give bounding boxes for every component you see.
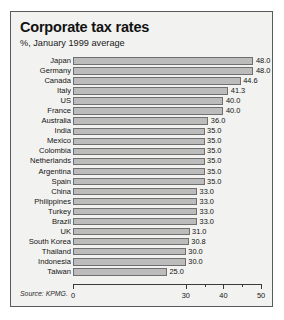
bar-row: Germany48.0: [11, 66, 272, 76]
bar-value-label: 36.0: [208, 116, 225, 126]
bar: [73, 218, 197, 225]
bar-row: Indonesia30.0: [11, 257, 272, 267]
bar-track: 35.0: [73, 167, 272, 177]
bar-row: Turkey33.0: [11, 207, 272, 217]
bar: [73, 258, 186, 265]
bar-track: 36.0: [73, 116, 272, 126]
bar-value-label: 41.3: [228, 86, 245, 96]
bar-category-label: Netherlands: [11, 156, 71, 166]
bar-category-label: Taiwan: [11, 267, 71, 277]
bar-value-label: 35.0: [205, 136, 222, 146]
bar: [73, 238, 189, 245]
bar-row: Argentina35.0: [11, 167, 272, 177]
bar-value-label: 35.0: [205, 177, 222, 187]
bar-track: 33.0: [73, 217, 272, 227]
bar-category-label: India: [11, 126, 71, 136]
bar-row: Spain35.0: [11, 177, 272, 187]
bar-row: India35.0: [11, 126, 272, 136]
bar-category-label: Thailand: [11, 247, 71, 257]
chart-subtitle: %, January 1999 average: [20, 37, 272, 50]
bar: [73, 77, 241, 84]
bar-value-label: 40.0: [223, 106, 240, 116]
bar-category-label: US: [11, 96, 71, 106]
bar-value-label: 31.0: [190, 227, 207, 237]
bar-value-label: 35.0: [205, 156, 222, 166]
bar-value-label: 30.0: [186, 257, 203, 267]
bar-row: Thailand30.0: [11, 247, 272, 257]
bar-category-label: Argentina: [11, 167, 71, 177]
bar-row: Japan48.0: [11, 56, 272, 66]
bar-row: China33.0: [11, 187, 272, 197]
bar-track: 41.3: [73, 86, 272, 96]
bar-row: Mexico35.0: [11, 136, 272, 146]
bar-row: Netherlands35.0: [11, 156, 272, 166]
bar-track: 35.0: [73, 146, 272, 156]
bar-value-label: 33.0: [197, 217, 214, 227]
bar-value-label: 30.0: [186, 247, 203, 257]
bar-track: 44.6: [73, 76, 272, 86]
bar-value-label: 48.0: [253, 66, 270, 76]
bar: [73, 228, 190, 235]
bar-category-label: Indonesia: [11, 257, 71, 267]
bar: [73, 138, 205, 145]
bar-value-label: 33.0: [197, 187, 214, 197]
bar-track: 33.0: [73, 187, 272, 197]
bar: [73, 178, 205, 185]
bar-row: Colombia35.0: [11, 146, 272, 156]
bar-track: 35.0: [73, 177, 272, 187]
x-axis-tick-label: 0: [71, 291, 75, 300]
bar-value-label: 25.0: [167, 267, 184, 277]
bar-row: Italy41.3: [11, 86, 272, 96]
bar-category-label: South Korea: [11, 237, 71, 247]
bar-row: Brazil33.0: [11, 217, 272, 227]
bar-track: 48.0: [73, 56, 272, 66]
bar-value-label: 35.0: [205, 126, 222, 136]
bar-track: 40.0: [73, 96, 272, 106]
bar: [73, 107, 223, 114]
bar-row: Canada44.6: [11, 76, 272, 86]
x-axis-minor-tick: [242, 284, 243, 287]
bar-row: Taiwan25.0: [11, 267, 272, 277]
chart-figure: Corporate tax rates %, January 1999 aver…: [10, 11, 273, 307]
bar-category-label: UK: [11, 227, 71, 237]
bar: [73, 158, 205, 165]
bar-category-label: Italy: [11, 86, 71, 96]
bar-category-label: China: [11, 187, 71, 197]
bar: [73, 87, 228, 94]
bar-track: 30.8: [73, 237, 272, 247]
source-note: Source: KPMG.: [20, 290, 68, 297]
bar-value-label: 48.0: [253, 56, 270, 66]
bar-track: 35.0: [73, 156, 272, 166]
bar-track: 30.0: [73, 247, 272, 257]
bar: [73, 57, 253, 64]
x-axis-line: [73, 284, 261, 285]
bar: [73, 198, 197, 205]
bar-row: UK31.0: [11, 227, 272, 237]
bar-row: US40.0: [11, 96, 272, 106]
bar: [73, 117, 208, 124]
bar: [73, 168, 205, 175]
bar-row: France40.0: [11, 106, 272, 116]
bar-value-label: 40.0: [223, 96, 240, 106]
bar: [73, 67, 253, 74]
bar: [73, 248, 186, 255]
bar-row: Australia36.0: [11, 116, 272, 126]
bar-track: 33.0: [73, 207, 272, 217]
bar-category-label: France: [11, 106, 71, 116]
bar-row: Philippines33.0: [11, 197, 272, 207]
bar-value-label: 35.0: [205, 146, 222, 156]
bar: [73, 148, 205, 155]
bar-value-label: 44.6: [241, 76, 258, 86]
bar-value-label: 35.0: [205, 167, 222, 177]
bar: [73, 97, 223, 104]
bar-track: 35.0: [73, 126, 272, 136]
chart-title: Corporate tax rates: [20, 19, 272, 36]
bar-track: 48.0: [73, 66, 272, 76]
bar: [73, 128, 205, 135]
chart-header: Corporate tax rates %, January 1999 aver…: [11, 12, 272, 50]
bar-track: 35.0: [73, 136, 272, 146]
bar-value-label: 30.8: [189, 237, 206, 247]
bar-category-label: Philippines: [11, 197, 71, 207]
bar: [73, 208, 197, 215]
bar: [73, 268, 167, 275]
